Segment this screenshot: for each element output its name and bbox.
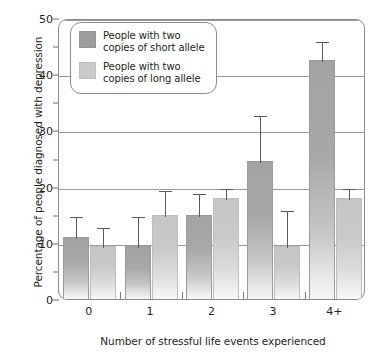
bar-short-allele-1 — [125, 246, 151, 299]
legend-label-short-allele: People with two copies of short allele — [103, 30, 205, 54]
legend-item-long-allele: People with two copies of long allele — [79, 61, 208, 85]
x-tick-divider-3 — [243, 292, 244, 299]
error-cap-short-3 — [254, 116, 267, 117]
legend-label-short-allele-line1: People with two — [103, 30, 181, 41]
error-bar-short-4+ — [322, 42, 323, 62]
x-tick-label-4+: 4+ — [311, 305, 357, 318]
y-tick-label-20: 20 — [13, 181, 53, 194]
legend: People with two copies of short allele P… — [70, 22, 217, 94]
y-tick-label-50: 50 — [13, 13, 53, 26]
legend-item-short-allele: People with two copies of short allele — [79, 30, 208, 54]
error-bar-short-0 — [76, 217, 77, 239]
bar-short-allele-2 — [186, 215, 212, 299]
y-axis-title: Percentage of people diagnosed with depr… — [32, 12, 44, 312]
x-tick-label-2: 2 — [189, 305, 235, 318]
y-tick-label-10: 10 — [13, 237, 53, 250]
bar-long-allele-0 — [90, 246, 116, 299]
error-cap-short-1 — [132, 217, 145, 218]
legend-swatch-short-allele-icon — [79, 31, 96, 48]
error-bar-short-3 — [260, 116, 261, 164]
x-axis-title: Number of stressful life events experien… — [55, 335, 371, 347]
bar-short-allele-0 — [63, 237, 89, 299]
error-bar-short-2 — [199, 194, 200, 216]
bar-chart-figure: Percentage of people diagnosed with depr… — [0, 0, 371, 354]
error-cap-short-4+ — [316, 42, 329, 43]
x-tick-divider-1 — [120, 292, 121, 299]
error-bar-long-2 — [226, 189, 227, 200]
error-cap-long-4+ — [343, 189, 356, 190]
y-tick-mark-0 — [51, 300, 59, 301]
x-tick-divider-2 — [182, 292, 183, 299]
x-tick-divider-4 — [305, 292, 306, 299]
error-cap-long-3 — [281, 211, 294, 212]
error-bar-long-1 — [165, 191, 166, 216]
bar-long-allele-3 — [274, 246, 300, 299]
x-tick-label-1: 1 — [127, 305, 173, 318]
error-bar-long-0 — [103, 228, 104, 248]
y-tick-label-0: 0 — [13, 294, 53, 307]
y-tick-label-30: 30 — [13, 125, 53, 138]
x-tick-label-3: 3 — [250, 305, 296, 318]
legend-label-long-allele-line1: People with two — [103, 61, 181, 72]
error-cap-long-1 — [159, 191, 172, 192]
bar-short-allele-3 — [247, 161, 273, 299]
legend-label-long-allele: People with two copies of long allele — [103, 61, 201, 85]
error-bar-short-1 — [138, 217, 139, 248]
error-cap-long-2 — [220, 189, 233, 190]
error-cap-short-0 — [70, 217, 83, 218]
bar-long-allele-4+ — [336, 198, 362, 299]
y-tick-mark-50 — [51, 19, 59, 20]
bar-long-allele-1 — [152, 215, 178, 299]
legend-label-long-allele-line2: copies of long allele — [103, 73, 201, 84]
error-bar-long-4+ — [349, 189, 350, 200]
bar-short-allele-4+ — [309, 60, 335, 299]
y-tick-label-40: 40 — [13, 69, 53, 82]
error-cap-short-2 — [193, 194, 206, 195]
x-tick-label-0: 0 — [66, 305, 112, 318]
error-bar-long-3 — [287, 211, 288, 248]
legend-label-short-allele-line2: copies of short allele — [103, 42, 205, 53]
error-cap-long-0 — [97, 228, 110, 229]
bar-long-allele-2 — [213, 198, 239, 299]
legend-swatch-long-allele-icon — [79, 62, 96, 79]
